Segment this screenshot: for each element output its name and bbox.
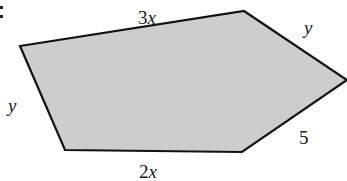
side-label-left: y [6, 95, 17, 116]
pentagon-figure: 3x y 5 2x y [0, 0, 347, 181]
margin-mark [0, 15, 3, 18]
side-label-bottom: 2x [139, 161, 158, 181]
side-label-top: 3x [138, 7, 157, 28]
margin-mark [0, 6, 3, 9]
pentagon-shape [20, 11, 347, 152]
side-label-upper-right: y [302, 17, 313, 38]
side-label-lower-right: 5 [299, 127, 309, 148]
